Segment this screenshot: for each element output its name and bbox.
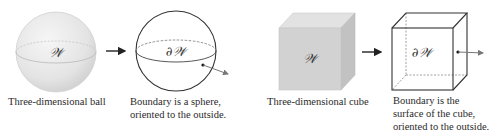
caption-line: oriented to the outside. <box>130 108 226 121</box>
caption-line: Boundary is the <box>393 94 489 107</box>
sphere-boundary: ∂𝒲 <box>136 11 228 91</box>
caption-ball: Three-dimensional ball <box>8 95 106 108</box>
normal-vector-icon <box>458 52 483 53</box>
caption-cube: Three-dimensional cube <box>267 95 369 108</box>
caption-line: Three-dimensional ball <box>8 95 106 108</box>
cube-surface-label: ∂𝒲 <box>412 45 436 60</box>
cube-surface-boundary: ∂𝒲 <box>392 13 483 90</box>
solid-ball: 𝒲 <box>16 12 96 92</box>
solid-cube: 𝒲 <box>279 13 355 90</box>
caption-line: Boundary is a sphere, <box>130 95 226 108</box>
sphere-label: ∂𝒲 <box>166 44 190 59</box>
caption-cube-surface: Boundary is the surface of the cube, ori… <box>393 94 489 133</box>
caption-line: oriented to the outside. <box>393 120 489 133</box>
caption-line: Three-dimensional cube <box>267 95 369 108</box>
caption-line: surface of the cube, <box>393 107 489 120</box>
caption-sphere: Boundary is a sphere, oriented to the ou… <box>130 95 226 121</box>
